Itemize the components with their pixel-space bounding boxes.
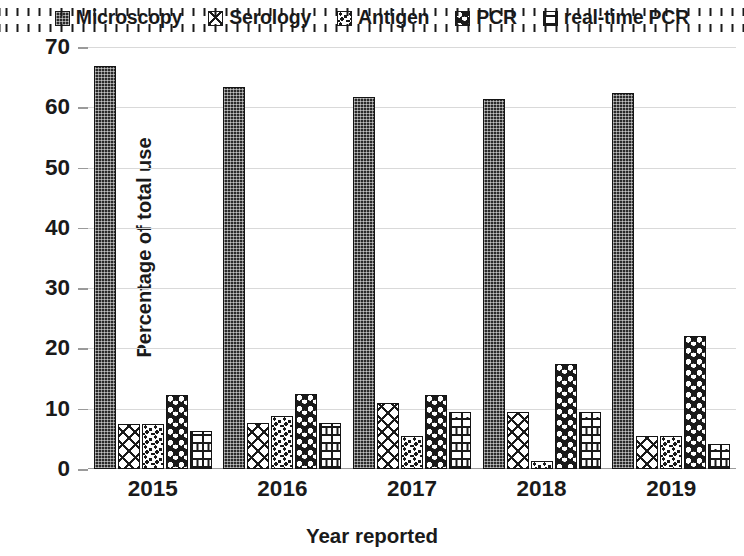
bar-pcr-2015	[166, 395, 188, 469]
x-tick-label: 2015	[88, 478, 218, 508]
y-tick-label: 40	[45, 217, 70, 240]
bar-pcr-2017	[425, 395, 447, 469]
bar-antigen-2015	[142, 424, 164, 469]
y-tick-label: 30	[45, 277, 70, 300]
bar-groups	[88, 47, 736, 469]
y-axis-tick	[78, 409, 88, 411]
bar-microscopy-2015	[94, 66, 116, 469]
plot-area	[88, 47, 736, 469]
y-axis-tick	[78, 228, 88, 230]
bar-serology-2016	[247, 423, 269, 469]
x-tick-label: 2016	[218, 478, 348, 508]
bar-group-2015	[88, 47, 218, 469]
y-tick-label: 0	[57, 458, 70, 481]
y-tick-label: 70	[45, 36, 70, 59]
bar-real-time-pcr-2016	[319, 423, 341, 469]
y-axis-tick	[78, 107, 88, 109]
bar-pcr-2018	[555, 364, 577, 470]
legend-swatch-real-time-pcr	[543, 11, 558, 26]
bar-serology-2015	[118, 424, 140, 469]
x-tick-label: 2018	[477, 478, 607, 508]
y-axis-tick	[78, 47, 88, 49]
bar-group-2016	[218, 47, 348, 469]
bar-microscopy-2017	[353, 97, 375, 469]
y-axis-tick	[78, 469, 88, 471]
y-axis-tick-labels: 010203040506070	[0, 47, 80, 469]
chart-figure: Microscopy Serology Antigen PCR real-tim…	[0, 0, 744, 556]
y-tick-label: 20	[45, 337, 70, 360]
bar-group-2017	[347, 47, 477, 469]
bar-antigen-2019	[660, 436, 682, 469]
y-axis-tick	[78, 348, 88, 350]
bar-microscopy-2016	[223, 87, 245, 469]
bar-antigen-2018	[531, 461, 553, 469]
bar-microscopy-2018	[483, 99, 505, 469]
y-axis-tick	[78, 168, 88, 170]
bar-pcr-2019	[684, 336, 706, 469]
bar-serology-2019	[636, 436, 658, 469]
y-tick-label: 50	[45, 156, 70, 179]
bar-real-time-pcr-2015	[190, 431, 212, 469]
x-tick-label: 2017	[347, 478, 477, 508]
y-axis-tick	[78, 288, 88, 290]
y-tick-label: 10	[45, 397, 70, 420]
y-tick-label: 60	[45, 96, 70, 119]
bar-microscopy-2019	[612, 93, 634, 469]
bar-antigen-2016	[271, 416, 293, 469]
bar-pcr-2016	[295, 394, 317, 469]
bar-serology-2017	[377, 403, 399, 469]
bar-antigen-2017	[401, 436, 423, 469]
bar-real-time-pcr-2018	[579, 412, 601, 469]
x-tick-label: 2019	[606, 478, 736, 508]
bar-group-2019	[606, 47, 736, 469]
chart-legend: Microscopy Serology Antigen PCR real-tim…	[0, 4, 744, 32]
bar-real-time-pcr-2017	[449, 412, 471, 469]
x-axis-title: Year reported	[0, 524, 744, 548]
x-axis-tick-labels: 20152016201720182019	[88, 478, 736, 508]
bar-group-2018	[477, 47, 607, 469]
bar-real-time-pcr-2019	[708, 444, 730, 469]
legend-item-real-time-pcr: real-time PCR	[543, 8, 689, 28]
bar-serology-2018	[507, 412, 529, 469]
